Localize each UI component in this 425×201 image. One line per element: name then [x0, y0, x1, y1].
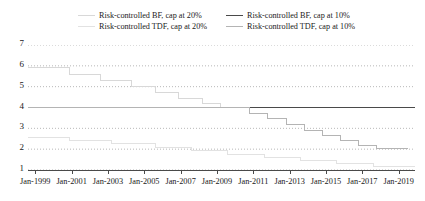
- x-axis-tick-Jan-2019: [399, 170, 400, 174]
- x-axis-line: [28, 170, 415, 171]
- legend-swatch-tdf-cap-10: [226, 26, 243, 27]
- legend-item-bf-cap-20: Risk-controlled BF, cap at 20%: [78, 10, 226, 21]
- x-axis-tick-label-Jan-2015: Jan-2015: [311, 177, 341, 186]
- chart-container: Risk-controlled BF, cap at 20% Risk-cont…: [0, 0, 425, 201]
- legend-swatch-bf-cap-10: [226, 15, 243, 16]
- x-axis-tick-Jan-2001: [72, 170, 73, 174]
- x-axis-tick-label-Jan-2013: Jan-2013: [274, 177, 304, 186]
- y-axis-tick-label-3: 3: [2, 122, 24, 131]
- x-axis-tick-label-Jan-2009: Jan-2009: [202, 177, 232, 186]
- y-axis-tick-label-1: 1: [2, 164, 24, 173]
- chart-legend: Risk-controlled BF, cap at 20% Risk-cont…: [78, 10, 378, 32]
- x-axis-tick-Jan-2013: [290, 170, 291, 174]
- x-axis-tick-label-Jan-2017: Jan-2017: [347, 177, 377, 186]
- legend-label-tdf-cap-20: Risk-controlled TDF, cap at 20%: [99, 21, 207, 32]
- series-line-0: [28, 68, 415, 108]
- legend-item-tdf-cap-20: Risk-controlled TDF, cap at 20%: [78, 21, 226, 32]
- x-axis-tick-label-Jan-1999: Jan-1999: [20, 177, 50, 186]
- x-axis-tick-Jan-2011: [253, 170, 254, 174]
- x-axis-tick-Jan-2007: [181, 170, 182, 174]
- x-axis-tick-Jan-2009: [217, 170, 218, 174]
- legend-swatch-tdf-cap-20: [78, 26, 95, 27]
- y-axis-tick-label-5: 5: [2, 81, 24, 90]
- y-axis-tick-label-6: 6: [2, 60, 24, 69]
- legend-item-tdf-cap-10: Risk-controlled TDF, cap at 10%: [226, 21, 378, 32]
- legend-label-bf-cap-10: Risk-controlled BF, cap at 10%: [247, 10, 350, 21]
- legend-item-bf-cap-10: Risk-controlled BF, cap at 10%: [226, 10, 378, 21]
- legend-swatch-bf-cap-20: [78, 15, 95, 16]
- x-axis-tick-label-Jan-2003: Jan-2003: [93, 177, 123, 186]
- x-axis-tick-label-Jan-2005: Jan-2005: [129, 177, 159, 186]
- x-axis-tick-label-Jan-2001: Jan-2001: [56, 177, 86, 186]
- legend-label-tdf-cap-10: Risk-controlled TDF, cap at 10%: [247, 21, 355, 32]
- x-axis-tick-label-Jan-2011: Jan-2011: [238, 177, 268, 186]
- x-axis-tick-label-Jan-2019: Jan-2019: [383, 177, 413, 186]
- x-axis-tick-Jan-2017: [362, 170, 363, 174]
- y-axis-tick-label-7: 7: [2, 39, 24, 48]
- x-axis-tick-Jan-1999: [35, 170, 36, 174]
- x-axis-tick-Jan-2005: [144, 170, 145, 174]
- y-axis-tick-label-2: 2: [2, 143, 24, 152]
- series-line-2: [28, 137, 415, 166]
- x-axis-tick-label-Jan-2007: Jan-2007: [165, 177, 195, 186]
- plot-area: [28, 45, 415, 170]
- legend-label-bf-cap-20: Risk-controlled BF, cap at 20%: [99, 10, 202, 21]
- y-axis-tick-label-4: 4: [2, 102, 24, 111]
- plot-svg: [28, 45, 415, 170]
- x-axis-tick-Jan-2003: [108, 170, 109, 174]
- x-axis-tick-Jan-2015: [326, 170, 327, 174]
